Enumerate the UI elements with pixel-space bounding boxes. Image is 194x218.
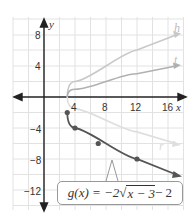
tick-y-8: 8 [35,30,41,41]
tick-x-12: 12 [130,102,142,113]
y-axis-label: y [48,18,54,30]
tick-y-neg8: −8 [30,155,42,166]
x-axis-label: x [175,101,181,113]
equation-box: g(x) = −2 √x − 3 − 2 [57,181,183,205]
tick-x-4: 4 [71,102,77,113]
curve-h-label: h [174,21,180,35]
equation-radicand: x − 3 [126,185,155,202]
sqrt-icon: √ [119,185,126,201]
tick-x-8: 8 [102,102,108,113]
equation-leader [106,160,118,181]
curve-r-label: r [159,139,164,153]
equation-rhs: − 2 [155,185,172,201]
tick-x-16: 16 [162,102,174,113]
tick-y-4: 4 [35,61,41,72]
equation-lhs: g(x) = −2 [68,185,119,201]
tick-y-neg4: −4 [30,124,42,135]
tick-y-neg12: −12 [24,186,41,197]
